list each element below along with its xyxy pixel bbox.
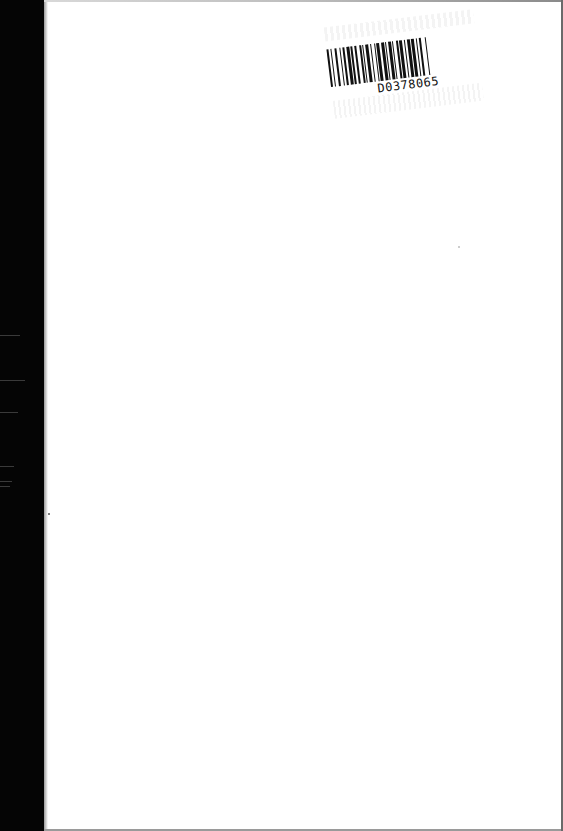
scan-streak xyxy=(0,380,25,381)
scan-speck xyxy=(48,513,50,515)
scan-streak xyxy=(0,466,14,467)
scan-streak xyxy=(0,335,20,336)
barcode-label: D0378065 xyxy=(326,25,485,123)
page-gutter-shadow xyxy=(44,0,48,831)
scan-speck xyxy=(458,246,460,248)
scan-streak xyxy=(0,486,10,487)
page-edge-top xyxy=(44,0,563,2)
scan-streak xyxy=(0,412,18,413)
scan-streak xyxy=(0,481,12,482)
scan-edge-left xyxy=(0,0,44,831)
